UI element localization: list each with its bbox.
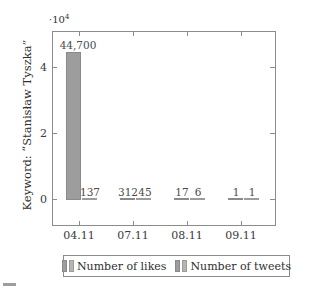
bar-likes-0911 [228,198,243,200]
legend-label-likes: Number of likes [76,260,167,273]
x-tick-mark-3 [241,221,242,226]
bar-likes-0711 [120,198,135,200]
y-tick-label-0: 0 [27,193,47,206]
bar-value-tweets-0911: 1 [222,186,282,198]
x-tick-mark-top-3 [241,31,242,36]
x-tick-label-0811: 08.11 [157,229,217,242]
bar-tweets-0711 [136,198,151,200]
bar-tweets-0911 [244,198,259,200]
x-tick-mark-top-1 [133,31,134,36]
y-tick-mark-right-4 [270,67,275,68]
x-tick-mark-0 [79,221,80,226]
plot-area-below-axis [52,199,276,226]
legend-swatch-tweets-primary-icon [175,260,180,272]
y-tick-mark-2 [52,133,57,134]
bar-tweets-0811 [190,198,205,200]
x-tick-label-0711: 07.11 [103,229,163,242]
bar-likes-0811 [174,198,189,200]
legend-entry-likes: Number of likes [62,260,167,273]
x-tick-label-0411: 04.11 [49,229,109,242]
legend-swatch-likes-secondary-icon [69,260,74,272]
legend-entry-tweets: Number of tweets [175,260,291,273]
bar-value-likes-0411: 44,700 [48,39,108,51]
chart-legend: Number of likes Number of tweets [63,255,290,277]
y-tick-mark-right-0 [270,199,275,200]
legend-label-tweets: Number of tweets [189,260,291,273]
bar-tweets-0411 [82,198,97,200]
y-tick-mark-right-2 [270,133,275,134]
x-tick-mark-2 [187,221,188,226]
y-tick-label-4: 4 [27,61,47,74]
x-tick-label-0911: 09.11 [211,229,271,242]
y-tick-mark-4 [52,67,57,68]
y-axis-multiplier-base: ·10 [49,14,65,25]
y-axis-multiplier: ·104 [49,13,69,25]
y-axis-multiplier-exponent: 4 [65,13,69,21]
y-tick-mark-0 [52,199,57,200]
legend-swatch-likes-icon [62,260,67,272]
y-tick-label-2: 2 [27,127,47,140]
x-tick-mark-top-0 [79,31,80,36]
x-tick-mark-top-2 [187,31,188,36]
x-tick-mark-1 [133,221,134,226]
legend-swatch-tweets-icon [182,260,187,272]
crop-edge-mark [3,283,16,286]
bar-likes-0411 [66,52,81,200]
plot-area [52,31,276,200]
